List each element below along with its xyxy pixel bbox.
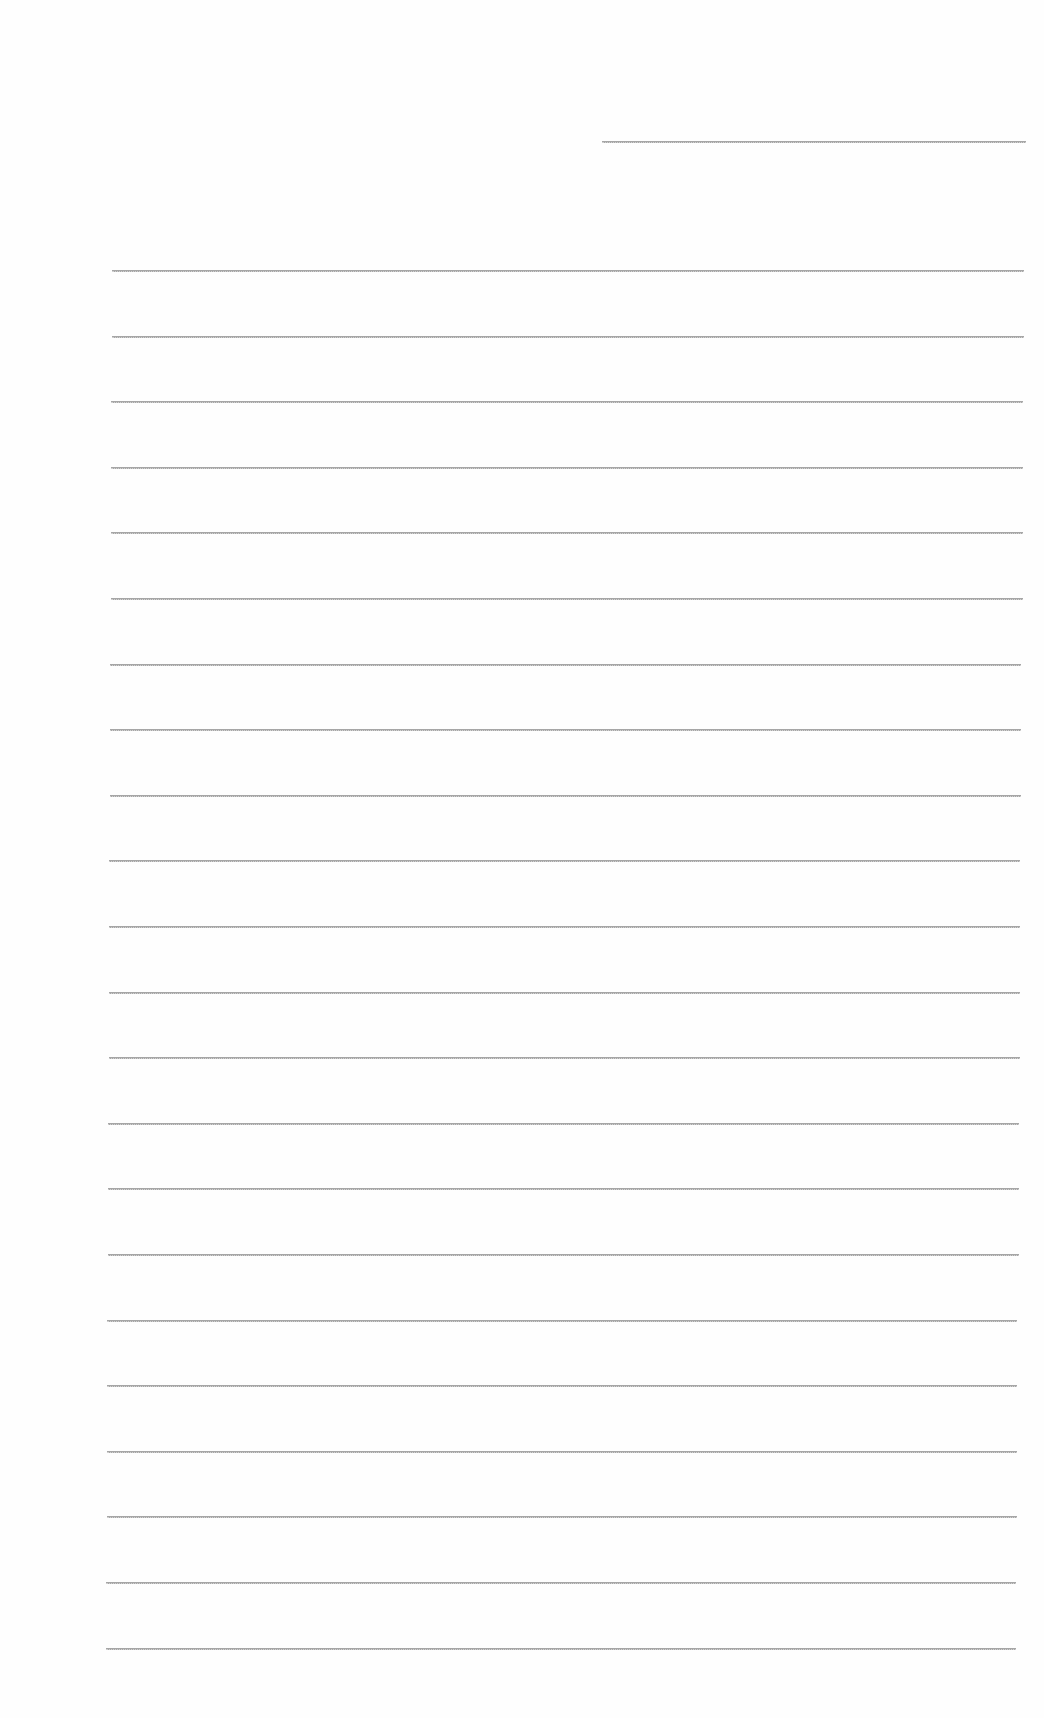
ruled-line — [108, 1254, 1019, 1256]
ruled-line — [111, 598, 1023, 600]
ruled-line — [107, 1516, 1017, 1518]
header-date-line — [602, 141, 1026, 143]
ruled-line — [111, 532, 1023, 534]
ruled-line — [110, 795, 1021, 797]
ruled-line — [106, 1582, 1016, 1584]
ruled-line — [108, 1188, 1019, 1190]
ruled-line — [107, 1385, 1017, 1387]
lined-paper-page — [0, 0, 1044, 1718]
ruled-line — [110, 729, 1021, 731]
ruled-line — [109, 860, 1020, 862]
ruled-line — [109, 1057, 1020, 1059]
ruled-line — [106, 1648, 1016, 1650]
ruled-line — [107, 1320, 1017, 1322]
ruled-line — [110, 664, 1021, 666]
ruled-line — [112, 336, 1024, 338]
ruled-line — [109, 992, 1020, 994]
ruled-line — [111, 467, 1023, 469]
ruled-line — [108, 1123, 1019, 1125]
ruled-line — [109, 926, 1020, 928]
ruled-line — [107, 1451, 1017, 1453]
ruled-line — [111, 401, 1023, 403]
ruled-line — [112, 270, 1024, 272]
